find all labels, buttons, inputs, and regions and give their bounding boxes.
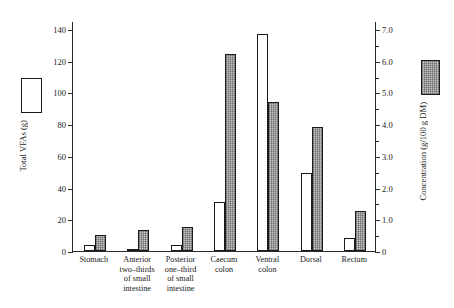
y-tick-left [68,30,73,31]
bar-total-vfas [127,249,138,251]
y-tick-right [375,157,380,158]
y-tick-left [68,62,73,63]
y-tick-left [68,93,73,94]
legend-swatch-total-vfas [21,78,42,113]
y-tick-right [375,125,380,126]
y-tick-label-left: 140 [53,26,66,35]
y-tick-label-left: 60 [58,153,67,162]
y-tick-label-left: 20 [58,216,67,225]
y-tick-label-left: 100 [53,89,66,98]
bar-total-vfas [214,202,225,251]
y-tick-label-left: 40 [58,184,67,193]
y-tick-right [375,141,379,142]
legend-right: Concentration (g/100 g DM) [412,60,452,260]
y-tick-left [68,157,73,158]
bar-group [203,54,246,251]
plot-area: 020406080100120140 01.02.03.04.05.06.07.… [72,22,376,252]
x-axis-category-label: Rectum [333,255,376,265]
y-tick-right [375,204,379,205]
y-tick-label-right: 2.0 [382,184,393,193]
bar-concentration [225,54,236,251]
bar-group [334,211,377,251]
y-tick-right [375,109,379,110]
y-tick-label-right: 6.0 [382,57,393,66]
bar-total-vfas [171,245,182,251]
x-axis-labels: StomachAnterior two–thirds of small inte… [72,255,376,307]
bar-group [160,227,203,251]
bar-concentration [138,230,149,251]
bar-total-vfas [344,238,355,251]
bar-total-vfas [84,245,95,251]
x-axis-category-label: Dorsal [289,255,332,265]
bar-concentration [95,235,106,251]
y-tick-right [375,220,380,221]
bar-concentration [182,227,193,251]
y-tick-right [375,236,379,237]
bar-concentration [312,127,323,251]
y-tick-label-right: 1.0 [382,216,393,225]
x-axis-category-label: Ventral colon [246,255,289,274]
x-axis-category-label: Stomach [72,255,115,265]
y-tick-label-right: 3.0 [382,153,393,162]
y-tick-left [68,189,73,190]
y-tick-right [375,62,380,63]
figure: Total VFAs (g) Concentration (g/100 g DM… [0,0,454,308]
y-tick-right [375,46,379,47]
y-tick-label-right: 5.0 [382,89,393,98]
y-tick-right [375,252,380,253]
bar-group [247,34,290,251]
y-tick-right [375,30,380,31]
bar-group [73,235,116,251]
x-axis-category-label: Posterior one–third of small intestine [159,255,202,293]
bars-layer [73,22,375,251]
y-tick-label-left: 80 [58,121,67,130]
y-tick-left [68,252,73,253]
legend-swatch-concentration [421,60,440,95]
bar-concentration [355,211,366,251]
legend-label-concentration: Concentration (g/100 g DM) [418,102,428,201]
y-tick-right [375,78,379,79]
bar-concentration [268,102,279,251]
y-tick-label-left: 120 [53,57,66,66]
bar-total-vfas [257,34,268,251]
x-axis-category-label: Caecum colon [202,255,245,274]
legend-label-total-vfas: Total VFAs (g) [18,120,28,172]
y-tick-right [375,189,380,190]
y-tick-label-right: 4.0 [382,121,393,130]
y-tick-label-right: 0 [382,248,386,257]
y-tick-left [68,125,73,126]
bar-group [116,230,159,251]
bar-total-vfas [301,173,312,251]
x-axis-category-label: Anterior two–thirds of small intestine [115,255,158,293]
y-tick-label-left: 0 [62,248,66,257]
y-tick-label-right: 7.0 [382,26,393,35]
y-tick-right [375,173,379,174]
y-tick-left [68,220,73,221]
y-tick-right [375,93,380,94]
bar-group [290,127,333,251]
